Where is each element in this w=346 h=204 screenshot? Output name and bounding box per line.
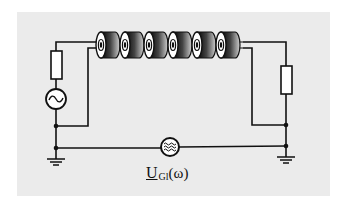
- resistor-left: [51, 51, 62, 79]
- ac-source: [46, 89, 66, 109]
- ferrite-core: [144, 32, 168, 58]
- ferrite-core: [192, 32, 216, 58]
- label-subscript: Gl: [159, 171, 169, 182]
- junction-dot: [54, 146, 59, 151]
- resistor-right: [281, 66, 292, 94]
- junction-dot: [54, 124, 59, 129]
- ferrite-core: [120, 32, 144, 58]
- noise-voltage-label: UGl(ω): [146, 164, 188, 182]
- ferrite-core: [216, 32, 240, 58]
- ferrite-core-group: [96, 32, 240, 58]
- ground-icon-left: [47, 159, 65, 165]
- wire-left-top: [56, 42, 100, 51]
- junction-dot: [284, 144, 289, 149]
- ferrite-core: [96, 32, 120, 58]
- ground-icon-right: [277, 157, 295, 163]
- wire-right-inner: [243, 48, 286, 125]
- wire-right-top: [243, 42, 286, 66]
- label-argument: (ω): [169, 165, 189, 181]
- wire-ground-right: [179, 146, 286, 147]
- junction-dot: [284, 123, 289, 128]
- ferrite-core: [168, 32, 192, 58]
- noise-source: [161, 138, 179, 156]
- label-main: U: [146, 164, 158, 181]
